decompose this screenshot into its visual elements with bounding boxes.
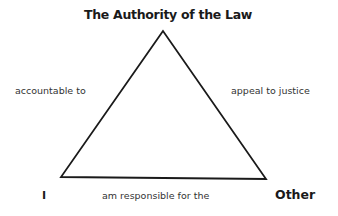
edge-right-label: appeal to justice: [231, 86, 310, 96]
edge-bottom-label: am responsible for the: [102, 191, 209, 201]
edge-left-label: accountable to: [15, 86, 86, 96]
triangle-diagram: [0, 0, 338, 216]
triangle-outline: [61, 31, 266, 179]
vertex-bottom-left-label: I: [42, 190, 46, 201]
vertex-bottom-right-label: Other: [275, 189, 315, 202]
vertex-top-label: The Authority of the Law: [84, 9, 252, 22]
